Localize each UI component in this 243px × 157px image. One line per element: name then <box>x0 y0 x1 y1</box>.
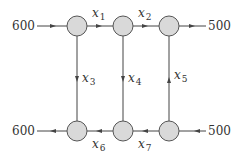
label-x7: x7 <box>138 138 152 153</box>
arrow-left-icon <box>50 129 56 133</box>
diagram-graphics <box>0 0 243 157</box>
label-x2: x2 <box>138 7 152 22</box>
node-bottom-middle <box>113 121 133 141</box>
arrow-right-icon <box>189 24 195 28</box>
arrow-down-icon <box>75 76 79 82</box>
arrow-up-icon <box>167 77 171 83</box>
node-top-left <box>67 16 87 36</box>
label-x4: x4 <box>128 72 142 87</box>
label-x6: x6 <box>92 138 106 153</box>
label-x1: x1 <box>92 7 106 22</box>
arrow-left-icon <box>142 129 148 133</box>
label-x3: x3 <box>82 72 96 87</box>
flow-in-bottom-value: 500 <box>208 125 231 137</box>
node-bottom-left <box>67 121 87 141</box>
node-top-middle <box>113 16 133 36</box>
arrow-left-icon <box>194 129 200 133</box>
node-top-right <box>159 16 179 36</box>
label-x5: x5 <box>174 69 188 84</box>
arrow-left-icon <box>96 129 102 133</box>
arrow-right-icon <box>96 24 102 28</box>
node-bottom-right <box>159 121 179 141</box>
arrow-down-icon <box>121 76 125 82</box>
flow-in-top-value: 600 <box>12 20 35 32</box>
arrow-right-icon <box>50 24 56 28</box>
flow-out-bottom-value: 600 <box>12 125 35 137</box>
flow-network-diagram: 600 500 600 500 x1 x2 x3 x4 x5 x6 x7 <box>0 0 243 157</box>
arrow-right-icon <box>142 24 148 28</box>
flow-out-top-value: 500 <box>208 20 231 32</box>
